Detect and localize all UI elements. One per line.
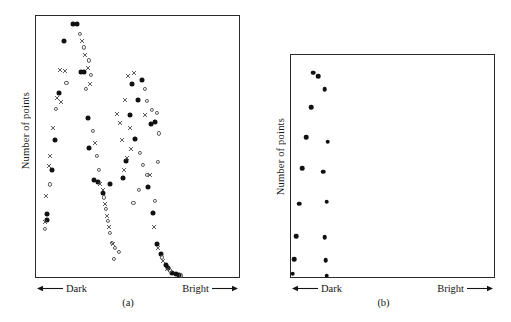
data-point-open-circle	[42, 227, 46, 231]
data-point-open-circle	[131, 201, 135, 205]
data-point-filled-circle	[87, 145, 92, 150]
data-point-filled-circle	[297, 201, 302, 206]
bright-direction-group-a: Bright	[182, 281, 238, 295]
data-point-open-circle	[168, 268, 172, 272]
panel-caption-b: (b)	[256, 297, 511, 308]
data-point-filled-circle	[70, 21, 75, 26]
data-point-open-circle	[82, 45, 86, 49]
data-point-open-circle	[140, 163, 144, 167]
data-point-cross	[100, 187, 105, 192]
data-point-filled-circle	[292, 257, 297, 262]
data-point-open-circle	[97, 168, 101, 172]
data-point-cross	[87, 81, 92, 86]
bright-direction-group-b: Bright	[437, 281, 493, 295]
y-axis-label-b: Number of points	[275, 118, 286, 195]
data-point-open-circle	[102, 195, 106, 199]
data-point-filled-circle	[95, 179, 100, 184]
data-point-filled-circle	[165, 265, 170, 270]
data-point-filled-circle	[52, 137, 57, 142]
data-point-cross	[47, 164, 52, 169]
data-point-cross	[44, 194, 49, 199]
data-point-open-circle	[145, 173, 149, 177]
data-point-open-circle	[143, 87, 147, 91]
data-point-cross	[129, 147, 134, 152]
data-point-open-circle	[160, 255, 164, 259]
data-point-cross	[97, 182, 102, 187]
data-point-filled-circle	[316, 74, 321, 79]
data-point-filled-circle	[75, 21, 80, 26]
data-point-open-circle	[91, 129, 95, 133]
data-point-cross	[58, 67, 63, 72]
data-point-open-circle	[95, 154, 99, 158]
y-axis-label-a: Number of points	[20, 92, 31, 169]
data-point-cross	[85, 66, 90, 71]
bright-label-a: Bright	[182, 283, 209, 294]
panel-b: Number of points Dark Bright	[256, 0, 511, 322]
data-point-cross	[120, 137, 125, 142]
data-point-filled-circle	[44, 212, 49, 217]
data-point-open-circle	[87, 58, 91, 62]
plot-area-b	[290, 54, 495, 278]
data-point-filled-circle	[177, 272, 182, 277]
data-point-filled-circle	[154, 242, 159, 247]
data-point-filled-circle	[324, 199, 329, 204]
data-point-filled-circle	[78, 70, 83, 75]
data-point-cross	[151, 225, 156, 230]
data-point-open-circle	[110, 241, 114, 245]
data-point-open-circle	[156, 160, 160, 164]
data-point-open-circle	[78, 32, 82, 36]
right-arrow-icon	[212, 284, 238, 293]
data-point-cross	[164, 267, 169, 272]
data-point-open-circle	[137, 151, 141, 155]
data-point-open-circle	[84, 87, 88, 91]
data-point-filled-circle	[309, 105, 314, 110]
data-point-cross	[103, 201, 108, 206]
data-point-cross	[142, 113, 147, 118]
data-point-filled-circle	[135, 97, 140, 102]
data-point-filled-circle	[304, 135, 309, 140]
data-point-open-circle	[104, 207, 108, 211]
data-point-cross	[132, 71, 137, 76]
data-point-open-circle	[106, 219, 110, 223]
x-axis-labels-b: Dark Bright	[290, 281, 495, 295]
data-point-cross	[59, 100, 64, 105]
data-point-filled-circle	[325, 139, 330, 144]
data-point-filled-circle	[108, 182, 113, 187]
data-point-filled-circle	[121, 175, 126, 180]
data-point-filled-circle	[101, 191, 106, 196]
data-point-filled-circle	[158, 251, 163, 256]
data-point-cross	[115, 111, 120, 116]
dark-label-a: Dark	[66, 283, 87, 294]
data-point-filled-circle	[139, 77, 144, 82]
data-point-open-circle	[153, 199, 157, 203]
data-point-cross	[63, 68, 68, 73]
data-point-cross	[43, 220, 48, 225]
data-point-cross	[82, 53, 87, 58]
data-point-cross	[105, 213, 110, 218]
data-point-filled-circle	[56, 91, 61, 96]
data-point-open-circle	[89, 73, 93, 77]
data-point-filled-circle	[294, 234, 299, 239]
data-point-open-circle	[64, 80, 68, 84]
data-point-cross	[125, 156, 130, 161]
x-axis-labels-a: Dark Bright	[35, 281, 240, 295]
data-point-open-circle	[145, 99, 149, 103]
dark-direction-group-b: Dark	[292, 281, 342, 295]
data-point-filled-circle	[61, 38, 66, 43]
data-point-cross	[107, 225, 112, 230]
left-arrow-icon	[37, 284, 63, 293]
data-point-cross	[123, 97, 128, 102]
data-point-open-circle	[113, 246, 117, 250]
data-point-open-circle	[150, 108, 154, 112]
data-point-filled-circle	[174, 272, 179, 277]
data-point-cross	[128, 126, 133, 131]
data-point-filled-circle	[324, 274, 329, 279]
data-point-cross	[51, 126, 56, 131]
figure-container: Number of points Dark Bright	[0, 0, 511, 322]
data-point-cross	[48, 153, 53, 158]
dark-direction-group-a: Dark	[37, 281, 87, 295]
data-point-cross	[147, 173, 152, 178]
data-point-filled-circle	[300, 166, 305, 171]
data-point-cross	[126, 74, 131, 79]
data-point-filled-circle	[322, 235, 327, 240]
